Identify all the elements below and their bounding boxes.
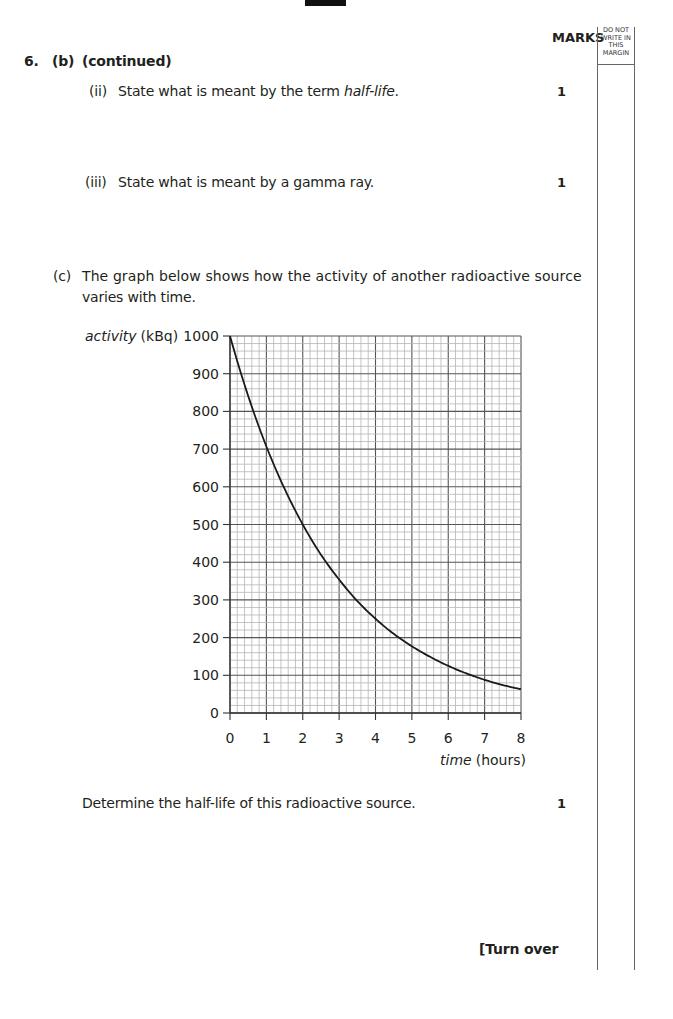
y-tick-label: 200: [192, 630, 219, 646]
part-c-prompt: Determine the half-life of this radioact…: [82, 795, 416, 811]
y-tick-label: 1000: [183, 328, 219, 344]
graph-grid: [230, 336, 521, 713]
x-axis-label-main: time: [440, 752, 472, 768]
marks-value: 1: [557, 796, 566, 811]
x-tick-labels: 012345678: [226, 730, 526, 746]
x-tick-label: 0: [226, 730, 235, 746]
x-axis-label: time(hours): [440, 752, 526, 768]
x-tick-label: 1: [262, 730, 271, 746]
y-axis-label-main: activity: [85, 328, 137, 344]
x-axis-label-unit: (hours): [476, 752, 526, 768]
y-tick-label: 500: [192, 517, 219, 533]
x-tick-label: 6: [444, 730, 453, 746]
x-tick-label: 3: [335, 730, 344, 746]
graph-axes: [223, 336, 521, 720]
y-axis-label-unit: (kBq): [141, 328, 179, 344]
x-tick-label: 5: [407, 730, 416, 746]
y-tick-label: 100: [192, 667, 219, 683]
y-tick-label: 900: [192, 366, 219, 382]
y-tick-label: 400: [192, 554, 219, 570]
y-tick-label: 300: [192, 592, 219, 608]
x-tick-label: 8: [517, 730, 526, 746]
x-tick-label: 2: [298, 730, 307, 746]
activity-time-graph: 01002003004005006007008009001000 0123456…: [0, 0, 673, 1019]
y-tick-label: 800: [192, 403, 219, 419]
y-tick-label: 700: [192, 441, 219, 457]
y-axis-label: activity(kBq): [85, 328, 178, 344]
y-tick-label: 600: [192, 479, 219, 495]
turn-over-label: [Turn over: [479, 941, 558, 957]
y-tick-label: 0: [210, 705, 219, 721]
x-tick-label: 7: [480, 730, 489, 746]
y-tick-labels: 01002003004005006007008009001000: [183, 328, 219, 721]
x-tick-label: 4: [371, 730, 380, 746]
